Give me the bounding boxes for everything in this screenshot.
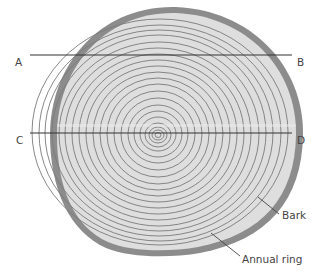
label-b: B [297, 56, 304, 68]
label-a: A [15, 56, 23, 68]
label-bark: Bark [282, 209, 307, 221]
tree-cross-section-diagram: A B C D Bark Annual ring [0, 0, 324, 280]
label-d: D [297, 134, 305, 146]
label-c: C [16, 134, 23, 146]
light-band [57, 124, 296, 127]
label-annual-ring: Annual ring [242, 253, 302, 265]
